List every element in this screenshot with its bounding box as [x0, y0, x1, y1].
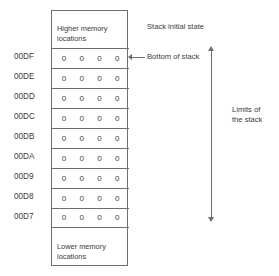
memory-cell: 0 [58, 115, 70, 123]
memory-cell: 0 [58, 55, 70, 63]
memory-cell: 0 [76, 195, 88, 203]
memory-cell: 0 [76, 95, 88, 103]
bottom-of-stack-label: Bottom of stack [147, 52, 199, 62]
memory-cell: 0 [111, 55, 123, 63]
arrow-shaft [211, 49, 212, 219]
table-row: 0 0 0 0 [52, 168, 129, 188]
memory-cell: 0 [58, 95, 70, 103]
memory-cell: 0 [76, 214, 88, 222]
memory-cell: 0 [111, 195, 123, 203]
memory-cell: 0 [111, 75, 123, 83]
memory-cell: 0 [93, 175, 105, 183]
address-label-00D8: 00D8 [14, 187, 48, 207]
address-label-00D9: 00D9 [14, 167, 48, 187]
table-row: 0 0 0 0 [52, 128, 129, 148]
memory-cell: 0 [76, 135, 88, 143]
table-row: 0 0 0 0 [52, 188, 129, 208]
memory-cell: 0 [58, 214, 70, 222]
stack-memory-diagram: Higher memory locations Lower memory loc… [0, 0, 279, 276]
memory-cell: 0 [93, 95, 105, 103]
bottom-of-stack-arrow-icon [128, 54, 132, 60]
memory-cell: 0 [76, 175, 88, 183]
memory-cell: 0 [93, 155, 105, 163]
memory-cell: 0 [58, 135, 70, 143]
bottom-of-stack-leader-line [130, 57, 145, 58]
memory-cell: 0 [93, 214, 105, 222]
address-label-00DA: 00DA [14, 147, 48, 167]
memory-cell: 0 [93, 135, 105, 143]
memory-cell: 0 [111, 214, 123, 222]
arrow-down-head-icon [208, 217, 214, 222]
table-row: 0 0 0 0 [52, 48, 129, 68]
diagram-title: Stack initial state [147, 22, 204, 32]
limits-of-stack-label: Limits of the stack [232, 105, 262, 125]
memory-cell: 0 [93, 55, 105, 63]
address-label-00D7: 00D7 [14, 207, 48, 227]
address-label-00DF: 00DF [14, 47, 48, 67]
memory-cell: 0 [111, 115, 123, 123]
table-row: 0 0 0 0 [52, 68, 129, 88]
memory-cell: 0 [58, 75, 70, 83]
memory-cell: 0 [76, 155, 88, 163]
memory-cell: 0 [111, 95, 123, 103]
limits-range-arrow-icon [207, 46, 216, 222]
memory-cell: 0 [58, 195, 70, 203]
address-label-00DD: 00DD [14, 87, 48, 107]
table-row: 0 0 0 0 [52, 88, 129, 108]
table-row: 0 0 0 0 [52, 148, 129, 168]
memory-cell: 0 [58, 175, 70, 183]
memory-cell: 0 [111, 135, 123, 143]
table-row: 0 0 0 0 [52, 208, 129, 228]
address-label-00DB: 00DB [14, 127, 48, 147]
memory-cell: 0 [93, 115, 105, 123]
memory-cell: 0 [93, 195, 105, 203]
memory-cell: 0 [76, 115, 88, 123]
memory-cell: 0 [58, 155, 70, 163]
memory-cell: 0 [111, 155, 123, 163]
higher-memory-caption: Higher memory locations [52, 24, 129, 43]
memory-cell: 0 [111, 175, 123, 183]
memory-table: Higher memory locations Lower memory loc… [51, 10, 128, 266]
lower-memory-caption: Lower memory locations [52, 242, 129, 261]
address-label-00DC: 00DC [14, 107, 48, 127]
table-row: 0 0 0 0 [52, 108, 129, 128]
address-label-00DE: 00DE [14, 67, 48, 87]
memory-cell: 0 [93, 75, 105, 83]
memory-cell: 0 [76, 75, 88, 83]
memory-cell: 0 [76, 55, 88, 63]
